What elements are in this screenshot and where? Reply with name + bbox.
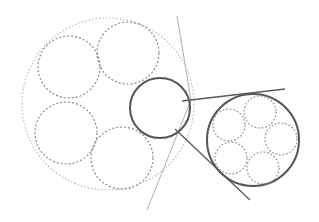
right-inner-circle-5: [247, 152, 279, 184]
outer-dotted-circle: [22, 18, 194, 190]
right-solid-circle-group: [207, 94, 299, 186]
nested-circles-diagram: [0, 0, 319, 222]
right-solid-circle: [207, 94, 299, 186]
thin-bent-line: [147, 16, 191, 210]
middle-solid-circle: [130, 78, 190, 138]
middle-solid-circle-group: [130, 78, 190, 138]
right-inner-circle-4: [215, 142, 247, 174]
left-inner-circle-4: [91, 127, 153, 189]
outer-dotted-circle-group: [22, 18, 194, 190]
left-inner-circles-group: [35, 22, 159, 189]
right-inner-circles-group: [213, 96, 297, 184]
right-inner-circle-3: [265, 123, 297, 155]
right-inner-circle-2: [244, 96, 276, 128]
right-inner-circle-1: [213, 109, 245, 141]
left-inner-circle-3: [35, 102, 97, 164]
tangent-line-2: [175, 129, 250, 200]
thin-bent-line-group: [147, 16, 191, 210]
left-inner-circle-1: [38, 36, 100, 98]
left-inner-circle-2: [97, 22, 159, 84]
